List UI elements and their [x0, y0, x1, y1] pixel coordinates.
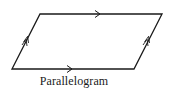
diagram-canvas: Parallelogram	[0, 0, 169, 91]
left-side-double-arrow-icon	[22, 36, 29, 46]
parallelogram-shape	[12, 14, 162, 69]
figure-caption: Parallelogram	[0, 74, 148, 89]
